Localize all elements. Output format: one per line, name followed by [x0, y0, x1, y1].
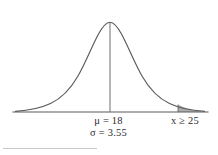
normal-distribution-figure: μ = 18 σ = 3.55 x ≥ 25 — [0, 0, 218, 155]
standard-deviation-label: σ = 3.55 — [0, 127, 218, 138]
page-divider-rule — [3, 148, 97, 149]
shaded-region-label: x ≥ 25 — [160, 115, 210, 126]
